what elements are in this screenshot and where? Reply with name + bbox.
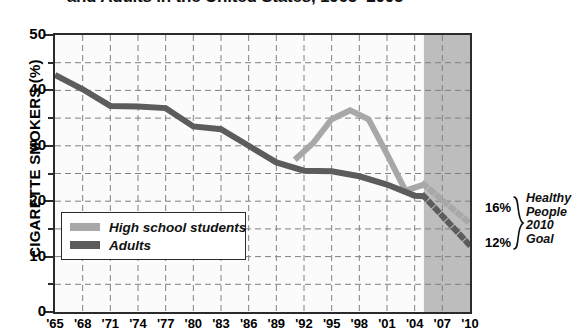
plot-svg	[55, 35, 470, 312]
goal-caption-line-3: 2010	[526, 219, 580, 233]
legend-swatch-adults	[70, 241, 100, 249]
legend-item-high-school: High school students	[70, 218, 237, 236]
x-tick-label-10: '10	[448, 316, 492, 331]
legend-swatch-high-school	[70, 223, 100, 231]
y-tick-label-50: 50	[6, 25, 46, 42]
goal-caption-line-1: Healthy	[526, 192, 580, 206]
legend-label-high-school: High school students	[109, 220, 246, 235]
goal-value-12-percent: 12%	[485, 235, 511, 250]
y-tick-label-20: 20	[6, 191, 46, 208]
y-tick-label-10: 10	[6, 247, 46, 264]
chart-title: and Adults in the United States, 1965–20…	[0, 0, 470, 7]
plot-area	[53, 33, 472, 314]
legend-label-adults: Adults	[109, 238, 151, 253]
goal-caption: Healthy People 2010 Goal	[526, 192, 580, 246]
chart-figure: and Adults in the United States, 1965–20…	[0, 0, 580, 336]
goal-caption-line-4: Goal	[526, 233, 580, 247]
curly-brace-icon	[513, 196, 525, 250]
y-tick-label-30: 30	[6, 136, 46, 153]
y-tick-label-40: 40	[6, 80, 46, 97]
chart-legend: High school students Adults	[61, 212, 246, 260]
goal-caption-line-2: People	[526, 206, 580, 220]
goal-value-16-percent: 16%	[485, 200, 511, 215]
legend-item-adults: Adults	[70, 236, 237, 254]
